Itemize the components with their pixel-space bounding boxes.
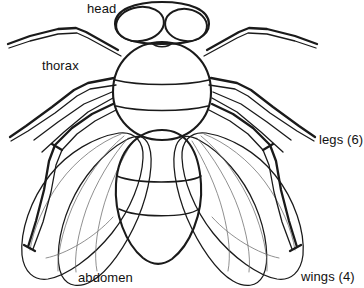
right-legs — [204, 28, 317, 251]
left-eye-outline — [114, 4, 166, 44]
right-wings — [174, 133, 303, 286]
thorax-segment-line-2 — [116, 106, 208, 111]
label-abdomen: abdomen — [78, 271, 133, 285]
label-head: head — [87, 2, 116, 16]
thorax-shape — [113, 42, 211, 140]
label-wings: wings (4) — [301, 270, 355, 284]
left-wing-lower — [58, 136, 151, 285]
thorax-outline — [113, 42, 211, 140]
left-wing-vein-3 — [96, 141, 133, 271]
label-legs: legs (6) — [319, 133, 363, 147]
right-hindleg — [212, 104, 297, 247]
head-shape — [114, 2, 209, 47]
abdomen-segment-line-2 — [119, 209, 199, 216]
fly-anatomy-diagram: head thorax abdomen legs (6) wings (4) — [0, 0, 364, 288]
left-foreleg — [8, 28, 118, 50]
left-wing-vein-5 — [46, 217, 113, 258]
right-wing-vein-5 — [212, 217, 279, 258]
fly-drawing-svg — [0, 0, 364, 288]
abdomen-shape — [116, 130, 201, 264]
thorax-segment-line-1 — [115, 80, 209, 85]
abdomen-outline — [116, 130, 201, 264]
right-wing-lower — [174, 136, 267, 285]
left-hindleg — [28, 104, 113, 247]
label-thorax: thorax — [42, 59, 79, 73]
abdomen-segment-line-1 — [117, 176, 201, 182]
right-foreleg — [207, 28, 317, 50]
left-wings — [22, 133, 151, 286]
left-compound-eye — [114, 4, 166, 44]
